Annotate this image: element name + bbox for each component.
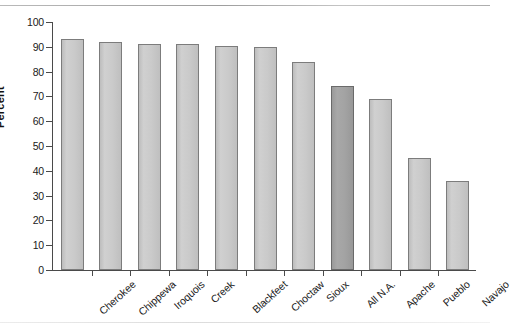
y-tick-label: 90: [4, 41, 44, 53]
x-tick-mark: [438, 271, 439, 276]
x-tick-label: Cherokee: [97, 278, 138, 317]
y-tick-label: 10: [4, 239, 44, 251]
y-tick-label-wrap: 10: [0, 239, 44, 251]
y-tick-label: 50: [4, 140, 44, 152]
x-tick-label: Blackfeet: [250, 278, 289, 315]
y-tick-label: 0: [4, 264, 44, 276]
y-tick-label-wrap: 90: [0, 41, 44, 53]
y-tick-label-wrap: 20: [0, 214, 44, 226]
x-tick-mark: [284, 271, 285, 276]
bar-series: [53, 22, 477, 270]
bar: [138, 44, 161, 270]
bar: [369, 99, 392, 270]
bar: [215, 46, 238, 270]
x-tick-label: Apache: [403, 278, 437, 310]
y-tick-label: 20: [4, 214, 44, 226]
y-tick-label: 70: [4, 90, 44, 102]
bar: [408, 158, 431, 270]
x-tick-mark: [361, 271, 362, 276]
bar: [176, 44, 199, 270]
y-tick-label-wrap: 0: [0, 264, 44, 276]
y-tick-label: 30: [4, 190, 44, 202]
bar: [446, 181, 469, 270]
x-tick-label: All N.A.: [364, 278, 397, 310]
y-tick-label-wrap: 70: [0, 90, 44, 102]
bar: [61, 39, 84, 270]
x-tick-label: Pueblo: [440, 278, 472, 308]
y-tick-label-wrap: 100: [0, 16, 44, 28]
y-tick-label-wrap: 80: [0, 66, 44, 78]
y-tick-label-wrap: 30: [0, 190, 44, 202]
x-tick-mark: [400, 271, 401, 276]
x-axis-line: [52, 270, 476, 271]
y-tick-label: 60: [4, 115, 44, 127]
x-tick-mark: [246, 271, 247, 276]
x-axis-category-labels: CherokeeChippewaIroquoisCreekBlackfeetCh…: [53, 278, 477, 330]
x-tick-mark: [207, 271, 208, 276]
x-tick-mark: [92, 271, 93, 276]
y-tick-label-wrap: 50: [0, 140, 44, 152]
x-tick-mark: [130, 271, 131, 276]
scan-artifact-top: [0, 5, 490, 6]
x-tick-label: Chippewa: [136, 278, 178, 318]
x-tick-label: Choctaw: [288, 278, 326, 314]
x-tick-label: Iroquois: [172, 278, 207, 311]
x-tick-mark: [169, 271, 170, 276]
bar: [292, 62, 315, 270]
bar: [99, 42, 122, 270]
y-tick-label-wrap: 60: [0, 115, 44, 127]
y-tick-label-wrap: 40: [0, 165, 44, 177]
y-tick-label: 40: [4, 165, 44, 177]
x-tick-mark: [323, 271, 324, 276]
x-tick-label: Sioux: [323, 278, 350, 304]
bar: [254, 47, 277, 270]
x-tick-label: Navajo: [479, 278, 511, 308]
x-tick-label: Creek: [208, 278, 236, 305]
bar: [331, 86, 354, 270]
y-tick-label: 80: [4, 66, 44, 78]
y-tick-label: 100: [4, 16, 44, 28]
